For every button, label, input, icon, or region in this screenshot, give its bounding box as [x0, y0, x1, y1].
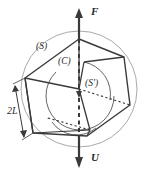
label-body-C: (C) [58, 57, 71, 67]
figure-container: F U (S) (C) (S') 2L [0, 0, 153, 172]
label-velocity-U: U [91, 152, 99, 163]
velocity-arrowhead-down [75, 157, 83, 168]
cube-edge-center-to-bottom [79, 89, 90, 130]
dimension-extension-top [13, 78, 25, 84]
force-arrowhead-up [75, 8, 83, 18]
cube-edge-left-vertical [25, 78, 33, 133]
cube-silhouette-hexagon [25, 39, 130, 136]
label-inner-surface-S-prime: (S') [85, 79, 98, 89]
label-dimension-2L: 2L [7, 106, 18, 116]
label-force-F: F [91, 6, 98, 17]
dimension-arrowhead-bottom [20, 130, 27, 138]
dimension-arrowhead-top [12, 85, 19, 92]
cube-edge-bottom-front [33, 130, 90, 133]
cube-edge-center-to-left [25, 78, 79, 89]
cube-edge-upper-right-inner [84, 57, 124, 62]
technical-diagram-svg [0, 0, 153, 172]
label-outer-surface-S: (S) [36, 42, 47, 52]
cube-hidden-edge-right [79, 89, 130, 105]
